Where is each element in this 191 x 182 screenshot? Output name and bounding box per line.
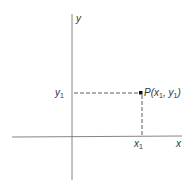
point-p-label: P(x1, y1) xyxy=(144,87,181,99)
x-axis-label: x xyxy=(175,138,182,149)
point-p-marker xyxy=(139,91,143,95)
y-axis-label: y xyxy=(75,13,82,24)
x-axis xyxy=(12,136,182,137)
x1-label: x1 xyxy=(133,138,143,150)
coordinate-diagram: y x y1 x1 P(x1, y1) xyxy=(0,0,191,182)
y1-label: y1 xyxy=(54,87,64,99)
